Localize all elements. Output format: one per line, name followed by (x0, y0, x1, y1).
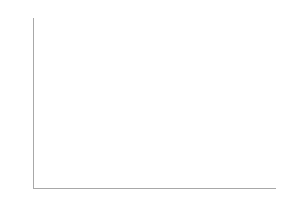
bars-layer (33, 18, 276, 188)
stacked-bar-chart (0, 0, 287, 220)
y-axis (0, 18, 31, 189)
x-axis (33, 190, 276, 212)
